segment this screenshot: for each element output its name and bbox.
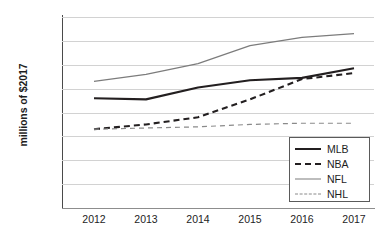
- legend-line-icon-nfl: [295, 174, 321, 184]
- series-line-nfl: [94, 34, 354, 82]
- x-axis-line: [62, 208, 375, 209]
- series-line-nba: [94, 73, 354, 129]
- legend-item-nhl[interactable]: NHL: [290, 186, 369, 201]
- legend-item-nba[interactable]: NBA: [290, 156, 369, 171]
- series-line-nhl: [94, 123, 354, 129]
- legend-item-nfl[interactable]: NFL: [290, 171, 369, 186]
- legend-label-nba: NBA: [321, 158, 349, 170]
- x-tick-label: 2012: [64, 213, 124, 225]
- legend-line-icon-mlb: [295, 144, 321, 154]
- legend: MLB NBA NFL NHL: [289, 137, 370, 202]
- legend-line-icon-nba: [295, 159, 321, 169]
- line-chart: millions of $2017 020406080100120140160 …: [0, 0, 385, 238]
- series-line-mlb: [94, 68, 354, 99]
- legend-item-mlb[interactable]: MLB: [290, 141, 369, 156]
- x-tick-label: 2015: [220, 213, 280, 225]
- legend-label-nhl: NHL: [321, 188, 348, 200]
- x-tick-label: 2014: [168, 213, 228, 225]
- legend-line-icon-nhl: [295, 189, 321, 199]
- legend-label-mlb: MLB: [321, 143, 349, 155]
- x-tick-label: 2017: [324, 213, 384, 225]
- x-tick-label: 2013: [116, 213, 176, 225]
- legend-label-nfl: NFL: [321, 173, 347, 185]
- x-tick-label: 2016: [272, 213, 332, 225]
